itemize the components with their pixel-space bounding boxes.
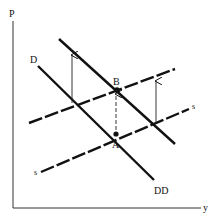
demand-label-dd: DD bbox=[154, 185, 168, 196]
supply-demand-diagram: P y D DD s s A B bbox=[0, 0, 212, 219]
point-b-marker bbox=[114, 87, 120, 93]
supply-label-right: s bbox=[192, 102, 195, 111]
quantity-axis-label: y bbox=[203, 202, 208, 213]
point-a-label: A bbox=[112, 139, 120, 150]
axes: P y bbox=[9, 8, 208, 213]
demand-curves: D DD bbox=[30, 39, 175, 196]
price-axis-label: P bbox=[9, 8, 15, 19]
demand-label-d: D bbox=[30, 54, 37, 65]
supply-label-left: s bbox=[34, 168, 37, 177]
point-b-label: B bbox=[113, 76, 120, 87]
point-a-marker bbox=[113, 131, 118, 136]
